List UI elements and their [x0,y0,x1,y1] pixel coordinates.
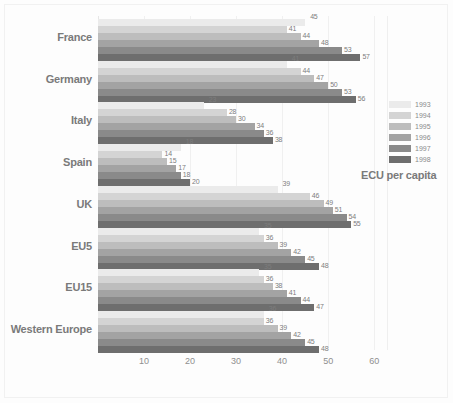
bar [98,339,305,346]
bar-value-label: 17 [178,164,185,171]
bar-group: 394649515455 [98,183,388,225]
bar-fill [98,325,278,332]
bar-value-label: 44 [303,296,310,303]
bar [98,19,305,26]
category-label-germany: Germany [46,73,92,85]
bar [98,207,333,214]
bar-value-label: 28 [229,108,236,115]
bar-value-label: 23 [209,96,216,103]
bar-value-label: 39 [280,241,287,248]
bar [98,116,236,123]
bar [98,325,278,332]
x-tick-label: 10 [139,356,149,366]
bar-value-label: 30 [238,115,245,122]
bar [98,332,291,339]
bar [98,297,301,304]
bar-fill [98,228,259,235]
bar-value-label: 15 [169,157,176,164]
bar [98,82,328,89]
bar-fill [98,200,324,207]
bar-value-label: 18 [186,138,193,145]
legend-swatch [389,156,411,163]
chart-container: FranceGermanyItalySpainUKEU5EU15Western … [0,0,453,403]
bar [98,33,301,40]
legend-label: 1994 [415,112,431,119]
x-axis: 102030405060 [98,352,388,372]
bar [98,242,278,249]
bar-fill [98,158,167,165]
bar-value-label: 47 [316,74,323,81]
bar [98,130,264,137]
bar-value-label: 53 [344,46,351,53]
bar [98,123,255,130]
bar [98,269,259,276]
category-label-eu5: EU5 [71,240,92,252]
bar-group: 181415171820 [98,141,388,183]
bar-fill [98,75,314,82]
bar-value-label: 18 [183,171,190,178]
bar-value-label: 45 [307,255,314,262]
bar-fill [98,151,162,158]
category-axis: FranceGermanyItalySpainUKEU5EU15Western … [0,16,92,350]
legend-title: ECU per capita [361,169,436,181]
bar-group: 414447505356 [98,58,388,100]
bar-value-label: 44 [303,67,310,74]
bar-fill [98,82,328,89]
bar [98,214,347,221]
bar [98,235,264,242]
legend-item-1998: 1998 [389,154,449,164]
bar-group: 454144485357 [98,16,388,58]
bar-fill [98,207,333,214]
bar-value-label: 54 [349,213,356,220]
bar [98,249,291,256]
bar-value-label: 44 [303,32,310,39]
legend-swatch [389,134,411,141]
bar-fill [98,249,291,256]
bar-fill [98,256,305,263]
category-label-uk: UK [77,198,93,210]
bar [98,193,310,200]
bar [98,283,273,290]
bar-value-label: 39 [283,180,290,187]
bar-fill [98,242,278,249]
category-label-italy: Italy [71,114,92,126]
legend-swatch [389,101,411,108]
bar [98,102,204,109]
bar [98,61,287,68]
bar-value-label: 36 [266,275,273,282]
legend-swatch [389,112,411,119]
category-label-spain: Spain [63,156,92,168]
bar [98,165,176,172]
bar-value-label: 51 [335,206,342,213]
legend-swatch [389,145,411,152]
bar [98,172,181,179]
bar-value-label: 14 [164,150,171,157]
bar-value-label: 49 [326,199,333,206]
bar-fill [98,47,342,54]
x-tick-label: 40 [277,356,287,366]
bar-value-label: 41 [289,25,296,32]
bar-fill [98,290,287,297]
bar-value-label: 35 [264,222,271,229]
bar-value-label: 41 [289,289,296,296]
x-tick-label: 20 [185,356,195,366]
bar-value-label: 36 [266,129,273,136]
bar-fill [98,26,287,33]
bar-fill [98,276,264,283]
category-label-france: France [57,31,92,43]
bar-value-label: 42 [293,331,300,338]
bar-value-label: 46 [312,192,319,199]
legend-item-1994: 1994 [389,110,449,120]
bar-value-label: 53 [344,88,351,95]
bar-fill [98,269,259,276]
legend-item-1996: 1996 [389,132,449,142]
legend-item-1995: 1995 [389,121,449,131]
bar-fill [98,130,264,137]
bar-value-label: 35 [264,263,271,270]
category-label-western-europe: Western Europe [11,323,92,335]
bar-fill [98,193,310,200]
bar-fill [98,102,204,109]
bar [98,109,227,116]
bar-value-label: 36 [266,234,273,241]
bar [98,256,305,263]
